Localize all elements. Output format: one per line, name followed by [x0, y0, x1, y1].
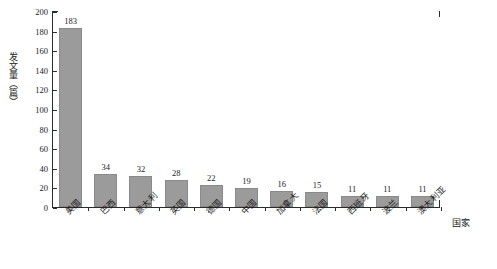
y-axis-tick-mark [53, 71, 57, 72]
bar-slot[interactable]: 32 [123, 12, 158, 207]
y-axis-tick-label: 40 [20, 164, 48, 173]
bar-slot[interactable]: 19 [229, 12, 264, 207]
y-axis-title: 发文量（篇） [4, 52, 18, 106]
bar-slot[interactable]: 16 [264, 12, 299, 207]
y-axis-tick-mark [53, 32, 57, 33]
x-axis-title: 国家 [452, 218, 470, 228]
x-axis-tick-labels: 美国巴西意大利英国德国中国加拿大法国西班牙波兰澳大利亚 [52, 210, 440, 266]
y-axis-tick-mark [53, 12, 57, 13]
bar-value-label: 16 [262, 180, 302, 189]
bar-slot[interactable]: 34 [88, 12, 123, 207]
y-axis-tick-label: 20 [20, 184, 48, 193]
y-axis-tick-mark [53, 188, 57, 189]
bar-slot[interactable]: 11 [405, 12, 440, 207]
bar-value-label: 19 [227, 177, 267, 186]
y-axis-tick-label: 80 [20, 125, 48, 134]
bar-chart-figure: 发文量（篇） 020406080100120140160180200 18334… [0, 0, 497, 269]
y-axis-tick-mark [53, 51, 57, 52]
bar-value-label: 28 [156, 169, 196, 178]
bar-slot[interactable]: 28 [159, 12, 194, 207]
y-axis-tick-label: 100 [20, 106, 48, 115]
y-axis-tick-labels: 020406080100120140160180200 [20, 8, 48, 208]
y-axis-tick-mark [53, 110, 57, 111]
y-axis-tick-label: 0 [20, 204, 48, 213]
y-axis-tick-mark [53, 208, 57, 209]
y-axis-tick-label: 200 [20, 8, 48, 17]
y-axis-tick-label: 180 [20, 27, 48, 36]
bar-value-label: 15 [297, 181, 337, 190]
x-axis-tick-mark [441, 207, 442, 211]
y-axis-tick-label: 120 [20, 86, 48, 95]
bar-value-label: 11 [367, 185, 407, 194]
bar[interactable] [59, 28, 82, 207]
bar-slot[interactable]: 11 [335, 12, 370, 207]
y-axis-tick-mark [53, 90, 57, 91]
plot-area: 18334322822191615111111 [52, 12, 440, 208]
y-axis-tick-label: 140 [20, 66, 48, 75]
y-axis-tick-mark [53, 149, 57, 150]
bar-value-label: 32 [121, 165, 161, 174]
y-axis-tick-label: 160 [20, 47, 48, 56]
bar-value-label: 183 [51, 17, 91, 26]
y-axis-tick-mark [53, 169, 57, 170]
y-axis-tick-mark [53, 130, 57, 131]
bar-slot[interactable]: 183 [53, 12, 88, 207]
bar-value-label: 34 [86, 163, 126, 172]
bar-slot[interactable]: 15 [299, 12, 334, 207]
bar-slot[interactable]: 22 [194, 12, 229, 207]
bar-value-label: 22 [191, 174, 231, 183]
y-axis-tick-label: 60 [20, 145, 48, 154]
bar-slot[interactable]: 11 [370, 12, 405, 207]
bar-series-group: 18334322822191615111111 [53, 12, 440, 207]
